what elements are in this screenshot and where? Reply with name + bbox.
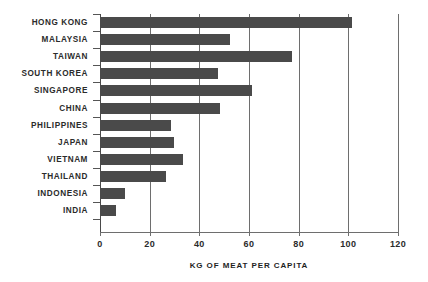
- gridline-120: [398, 14, 399, 232]
- y-axis-tick: [93, 48, 100, 49]
- bar: [101, 68, 218, 79]
- category-label: HONG KONG: [32, 14, 88, 31]
- bar: [101, 171, 166, 182]
- bar: [101, 205, 116, 216]
- y-axis-tick: [93, 168, 100, 169]
- x-axis-tick: [398, 232, 399, 236]
- category-label: VIETNAM: [47, 151, 88, 168]
- y-axis-tick: [93, 219, 100, 220]
- x-axis-tick: [348, 232, 349, 236]
- category-label: INDIA: [63, 202, 88, 219]
- x-axis-tick: [199, 232, 200, 236]
- x-axis-tick-label: 40: [194, 239, 205, 249]
- x-axis-tick-label: 100: [340, 239, 356, 249]
- gridline-100: [348, 14, 349, 232]
- x-axis-tick: [100, 232, 101, 236]
- category-label: CHINA: [59, 100, 88, 117]
- x-axis-tick: [299, 232, 300, 236]
- y-axis-tick: [93, 134, 100, 135]
- category-label: THAILAND: [42, 168, 88, 185]
- bar: [101, 188, 125, 199]
- y-axis-tick: [93, 31, 100, 32]
- bar: [101, 34, 230, 45]
- x-axis-tick-label: 120: [390, 239, 406, 249]
- x-axis-tick-label: 80: [293, 239, 304, 249]
- plot-area: [100, 14, 398, 232]
- bar: [101, 85, 252, 96]
- bar: [101, 17, 352, 28]
- x-axis-title: KG OF MEAT PER CAPITA: [100, 261, 398, 270]
- y-axis-tick: [93, 117, 100, 118]
- category-label: MALAYSIA: [42, 31, 88, 48]
- category-label: TAIWAN: [53, 48, 88, 65]
- gridline-40: [199, 14, 200, 232]
- category-label: INDONESIA: [38, 185, 88, 202]
- bar: [101, 51, 292, 62]
- y-axis-tick: [93, 151, 100, 152]
- y-axis-tick: [93, 82, 100, 83]
- category-label: SINGAPORE: [34, 82, 88, 99]
- category-axis: HONG KONGMALAYSIATAIWANSOUTH KOREASINGAP…: [0, 14, 94, 232]
- y-axis-tick: [93, 14, 100, 15]
- category-label: SOUTH KOREA: [21, 65, 88, 82]
- gridline-80: [299, 14, 300, 232]
- category-label: PHILIPPINES: [31, 117, 88, 134]
- bar: [101, 137, 174, 148]
- x-axis-tick-label: 60: [244, 239, 255, 249]
- bar: [101, 154, 183, 165]
- y-axis-tick: [93, 202, 100, 203]
- category-label: JAPAN: [58, 134, 88, 151]
- x-axis-tick-label: 0: [97, 239, 102, 249]
- gridline-60: [249, 14, 250, 232]
- y-axis-tick: [93, 185, 100, 186]
- bar: [101, 120, 171, 131]
- meat-consumption-bar-chart: HONG KONGMALAYSIATAIWANSOUTH KOREASINGAP…: [0, 0, 428, 282]
- y-axis-tick: [93, 100, 100, 101]
- x-axis-tick: [150, 232, 151, 236]
- x-axis-tick-label: 20: [144, 239, 155, 249]
- x-axis-tick: [249, 232, 250, 236]
- y-axis-tick: [93, 65, 100, 66]
- bar: [101, 103, 220, 114]
